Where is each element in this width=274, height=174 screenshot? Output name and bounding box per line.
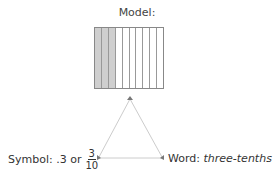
- fraction-numerator: 3: [88, 148, 96, 160]
- symbol-prefix: Symbol: .3 or: [8, 153, 81, 166]
- symbol-label: Symbol: .3 or 3 10: [8, 148, 98, 171]
- word-prefix: Word:: [168, 152, 200, 165]
- fraction: 3 10: [85, 148, 98, 171]
- fraction-denominator: 10: [85, 160, 98, 171]
- triangle-edge-right: [130, 99, 162, 157]
- arrowhead-top-icon: [127, 96, 133, 100]
- word-label: Word: three-tenths: [168, 152, 272, 165]
- triangle-edge-left: [99, 99, 130, 157]
- word-value: three-tenths: [203, 152, 271, 165]
